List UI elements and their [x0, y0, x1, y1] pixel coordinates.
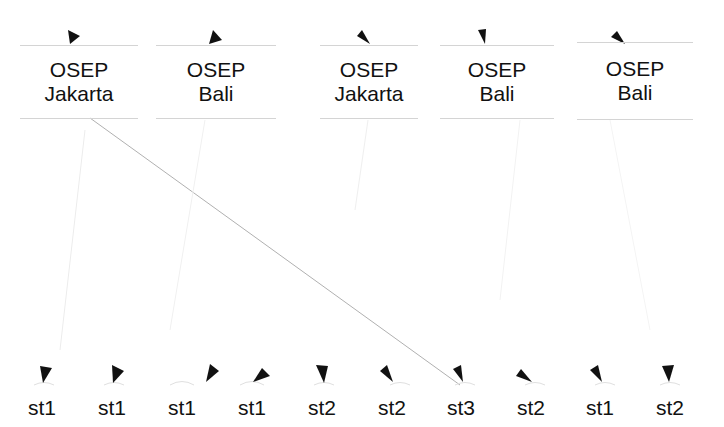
- node-title: OSEP: [50, 58, 108, 82]
- node-title: OSEP: [340, 58, 398, 82]
- arrowhead-icon: [380, 365, 393, 382]
- leaf-label: st1: [227, 396, 277, 420]
- node-title: OSEP: [468, 58, 526, 82]
- node-subtitle: Bali: [617, 81, 652, 105]
- node-subtitle: Jakarta: [45, 82, 114, 106]
- top-node: OSEP Jakarta: [20, 45, 138, 119]
- node-subtitle: Bali: [198, 82, 233, 106]
- leaf-label: st1: [17, 396, 67, 420]
- leaf-label: st2: [367, 396, 417, 420]
- arrowhead-icon: [357, 30, 370, 44]
- leaf-label: st1: [87, 396, 137, 420]
- leaf-label: st2: [645, 396, 695, 420]
- arrowhead-icon: [316, 365, 328, 383]
- leaf-label: st1: [575, 396, 625, 420]
- leaf-label: st3: [436, 396, 486, 420]
- top-node: OSEP Bali: [440, 45, 554, 119]
- arrowhead-icon: [478, 29, 486, 44]
- arrowhead-icon: [453, 365, 463, 382]
- arrowhead-icon: [209, 30, 222, 44]
- arrowhead-icon: [40, 366, 52, 383]
- arrowhead-icon: [516, 369, 532, 382]
- leaf-label: st1: [157, 396, 207, 420]
- top-node: OSEP Jakarta: [320, 45, 418, 119]
- arrowhead-icon: [112, 365, 124, 383]
- arrowhead-icon: [662, 365, 674, 382]
- arrowhead-icon: [206, 364, 219, 382]
- node-title: OSEP: [187, 58, 245, 82]
- leaf-label: st2: [506, 396, 556, 420]
- arrowhead-icon: [253, 368, 270, 382]
- node-subtitle: Bali: [479, 82, 514, 106]
- arrowhead-icon: [68, 30, 80, 44]
- leaf-label: st2: [297, 396, 347, 420]
- node-subtitle: Jakarta: [335, 82, 404, 106]
- top-node: OSEP Bali: [577, 42, 693, 120]
- arrowhead-icon: [590, 365, 602, 382]
- top-node: OSEP Bali: [156, 45, 276, 119]
- node-title: OSEP: [606, 57, 664, 81]
